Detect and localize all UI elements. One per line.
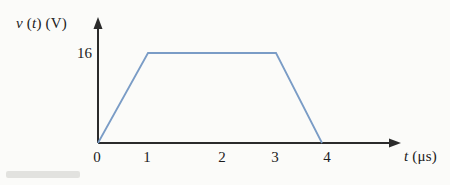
waveform-trace	[98, 53, 322, 143]
y-axis-label-unit: V	[51, 15, 62, 31]
y-axis-arrowhead-icon	[94, 17, 103, 29]
waveform-figure: v (t) (V) t (μs) 16 0 1 2 3 4	[0, 0, 450, 185]
x-tick-label-2: 2	[210, 149, 234, 166]
x-tick-label-1: 1	[135, 149, 159, 166]
x-axis-arrowhead-icon	[389, 139, 401, 148]
x-tick-label-3: 3	[263, 149, 287, 166]
y-tick-label-16: 16	[58, 45, 92, 62]
x-axis-label-unit: μs	[418, 148, 432, 164]
y-axis-label: v (t) (V)	[16, 15, 67, 32]
x-tick-label-0: 0	[85, 149, 109, 166]
x-axis-label-open-paren: (	[408, 148, 417, 164]
y-axis-label-close-open-paren: ) (	[36, 15, 50, 31]
y-axis-label-open-paren: (	[23, 15, 32, 31]
x-tick-label-4: 4	[315, 149, 339, 166]
x-axis-label: t (μs)	[404, 148, 437, 165]
x-axis-label-close-paren: )	[432, 148, 437, 164]
y-axis-label-symbol: v	[16, 15, 23, 31]
scan-artifact-smudge	[6, 171, 80, 178]
y-axis-label-close-paren: )	[62, 15, 67, 31]
